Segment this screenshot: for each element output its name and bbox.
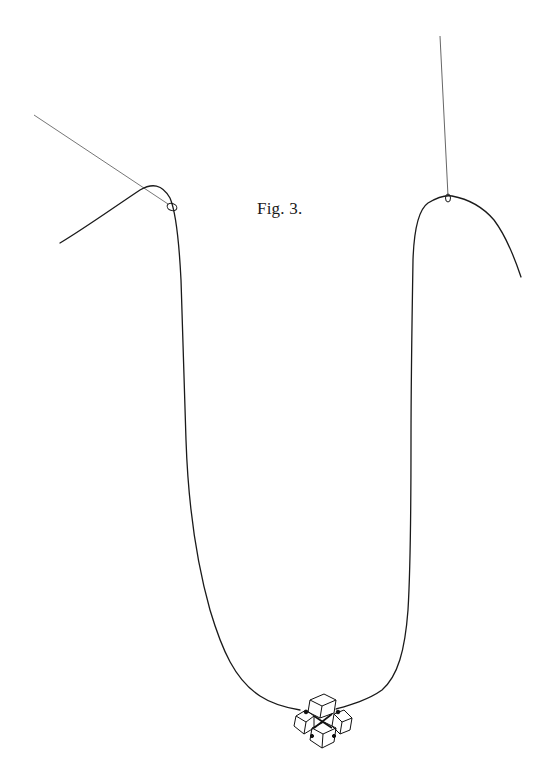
figure-canvas: Fig. 3. xyxy=(0,0,554,780)
main-hanging-thread xyxy=(60,186,521,710)
figure-label: Fig. 3. xyxy=(257,199,302,219)
left-support-thread xyxy=(34,115,168,204)
crystal-pendant xyxy=(294,694,352,748)
figure-drawing xyxy=(0,0,554,780)
right-support-thread xyxy=(440,36,448,196)
